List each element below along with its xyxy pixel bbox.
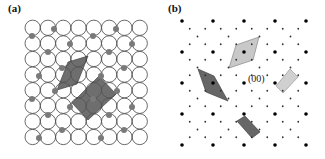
fractional-order-spot — [251, 90, 253, 92]
fractional-order-spot — [235, 59, 237, 61]
fractional-order-spot — [220, 59, 222, 61]
fractional-order-spot — [290, 67, 292, 69]
fractional-order-spot — [290, 36, 292, 38]
integer-order-spot — [242, 81, 246, 85]
adatom — [106, 49, 112, 55]
fractional-order-spot — [228, 67, 230, 69]
substrate-atom — [86, 51, 101, 66]
adatom — [121, 65, 127, 71]
substrate-atom — [25, 114, 40, 129]
substrate-atom — [132, 51, 147, 66]
integer-order-spot — [273, 81, 277, 85]
integer-order-spot — [211, 19, 215, 23]
panel-a-real-space: (a) — [0, 0, 162, 159]
substrate-atom — [117, 114, 132, 129]
fractional-order-spot — [220, 74, 222, 76]
fractional-order-spot — [235, 43, 237, 45]
adatom — [113, 26, 119, 32]
fractional-order-spot — [235, 28, 237, 30]
fractional-order-spot — [297, 28, 299, 30]
substrate-atom — [56, 114, 71, 129]
fractional-order-spot — [266, 105, 268, 107]
substrate-atom — [71, 36, 86, 51]
substrate-atom — [102, 67, 117, 82]
fractional-order-spot — [220, 136, 222, 138]
fractional-order-spot — [204, 136, 206, 138]
integer-order-spot — [180, 112, 184, 116]
integer-order-spot — [242, 143, 246, 147]
adatom — [106, 112, 112, 118]
fractional-order-spot — [189, 59, 191, 61]
adatom — [45, 49, 51, 55]
fractional-order-spot — [204, 28, 206, 30]
substrate-atom — [71, 129, 86, 144]
rhombic-cell — [57, 56, 88, 90]
fractional-order-spot — [220, 90, 222, 92]
fractional-order-spot — [235, 136, 237, 138]
adatom — [67, 41, 73, 47]
fractional-order-spot — [282, 43, 284, 45]
integer-order-spot — [180, 19, 184, 23]
fractional-order-spot — [189, 121, 191, 123]
fractional-order-spot — [235, 105, 237, 107]
fractional-order-spot — [251, 43, 253, 45]
diffraction-pattern-diagram — [162, 0, 325, 159]
substrate-atom — [117, 51, 132, 66]
integer-order-spot — [180, 81, 184, 85]
substrate-atom — [102, 36, 117, 51]
adatom — [29, 33, 35, 39]
rhombic-cell-dark — [198, 69, 228, 101]
adatom — [36, 73, 42, 79]
fractional-order-spot — [282, 90, 284, 92]
adatom — [114, 88, 120, 94]
fractional-order-spot — [235, 74, 237, 76]
integer-order-spot — [180, 50, 184, 54]
fractional-order-spot — [266, 43, 268, 45]
substrate-atom — [132, 67, 147, 82]
substrate-atom — [56, 20, 71, 35]
adatom — [121, 127, 127, 133]
fractional-order-spot — [259, 129, 261, 131]
fractional-order-spot — [251, 136, 253, 138]
integer-order-spot — [304, 81, 308, 85]
fractional-order-spot — [204, 74, 206, 76]
fractional-order-spot — [204, 59, 206, 61]
fractional-order-spot — [189, 28, 191, 30]
fractional-order-spot — [189, 105, 191, 107]
real-space-lattice-diagram — [0, 0, 162, 159]
fractional-order-spot — [228, 98, 230, 100]
integer-order-spot — [242, 50, 246, 54]
substrate-atom — [132, 114, 147, 129]
fractional-order-spot — [228, 129, 230, 131]
panel-b-label: (b) — [168, 2, 181, 14]
adatom — [98, 73, 104, 79]
fractional-order-spot — [297, 43, 299, 45]
substrate-atom — [25, 51, 40, 66]
fractional-order-spot — [251, 105, 253, 107]
fractional-order-spot — [204, 121, 206, 123]
integer-order-spot — [273, 112, 277, 116]
adatom — [90, 33, 96, 39]
fractional-order-spot — [266, 28, 268, 30]
fractional-order-spot — [204, 90, 206, 92]
fractional-order-spot — [251, 28, 253, 30]
fractional-order-spot — [297, 59, 299, 61]
adatom — [98, 135, 104, 141]
fractional-order-spot — [220, 105, 222, 107]
rectangular-cell-dark — [237, 116, 260, 138]
integer-order-spot — [211, 143, 215, 147]
integer-order-spot — [211, 81, 215, 85]
fractional-order-spot — [259, 98, 261, 100]
integer-order-spot — [211, 50, 215, 54]
fractional-order-spot — [290, 129, 292, 131]
integer-order-spot — [304, 112, 308, 116]
fractional-order-spot — [189, 74, 191, 76]
fractional-order-spot — [282, 136, 284, 138]
integer-order-spot — [304, 50, 308, 54]
fractional-order-spot — [235, 90, 237, 92]
integer-order-spot — [180, 143, 184, 147]
fractional-order-spot — [197, 36, 199, 38]
integer-order-spot — [242, 112, 246, 116]
substrate-atom — [40, 129, 55, 144]
substrate-atom — [132, 83, 147, 98]
